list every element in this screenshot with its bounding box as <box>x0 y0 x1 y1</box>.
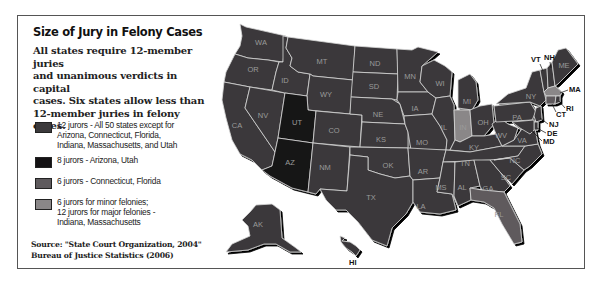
svg-text:MN: MN <box>404 72 416 81</box>
svg-text:AK: AK <box>253 220 263 229</box>
us-map: WA OR CA NV ID MT WY UT AZ CO NM ND SD N… <box>0 0 597 281</box>
svg-text:KY: KY <box>469 143 479 152</box>
svg-text:TX: TX <box>366 193 376 202</box>
svg-text:AZ: AZ <box>285 158 295 167</box>
svg-text:HI: HI <box>349 258 357 267</box>
svg-text:IA: IA <box>411 104 418 113</box>
state-nj <box>534 106 542 122</box>
svg-text:NY: NY <box>526 92 536 101</box>
svg-text:CT: CT <box>556 110 566 119</box>
svg-text:RI: RI <box>566 104 574 113</box>
svg-text:IN: IN <box>459 123 467 132</box>
svg-text:CO: CO <box>328 126 339 135</box>
svg-text:MA: MA <box>569 85 581 94</box>
svg-text:AL: AL <box>457 183 466 192</box>
state-ct <box>546 96 556 104</box>
svg-text:PA: PA <box>512 113 521 122</box>
svg-text:FL: FL <box>495 210 504 219</box>
svg-text:MS: MS <box>435 183 446 192</box>
svg-text:NE: NE <box>373 110 383 119</box>
svg-text:ID: ID <box>281 76 289 85</box>
svg-text:GA: GA <box>483 184 494 193</box>
state-hi <box>340 236 360 256</box>
svg-text:NC: NC <box>510 156 521 165</box>
svg-text:NM: NM <box>319 163 331 172</box>
svg-text:OK: OK <box>383 161 394 170</box>
svg-text:OH: OH <box>477 118 488 127</box>
svg-text:MD: MD <box>543 137 555 146</box>
svg-text:SC: SC <box>501 173 512 182</box>
state-ny <box>496 70 546 106</box>
svg-text:IL: IL <box>441 123 447 132</box>
svg-text:MT: MT <box>317 57 328 66</box>
svg-text:VA: VA <box>517 136 526 145</box>
svg-text:NV: NV <box>258 111 268 120</box>
svg-text:AR: AR <box>418 167 429 176</box>
svg-text:NJ: NJ <box>549 120 559 129</box>
svg-text:CA: CA <box>232 121 242 130</box>
svg-text:MI: MI <box>463 97 471 106</box>
svg-text:VT: VT <box>531 55 541 64</box>
svg-text:WV: WV <box>495 131 507 140</box>
svg-text:WY: WY <box>320 90 332 99</box>
svg-text:WI: WI <box>435 79 444 88</box>
svg-text:NH: NH <box>544 53 555 62</box>
state-ak <box>226 204 301 252</box>
svg-text:UT: UT <box>292 118 302 127</box>
svg-text:MO: MO <box>416 138 428 147</box>
svg-text:ME: ME <box>558 61 569 70</box>
state-de <box>534 122 538 130</box>
svg-text:LA: LA <box>416 202 425 211</box>
state-ri <box>555 96 560 104</box>
svg-text:ND: ND <box>370 59 381 68</box>
svg-text:KS: KS <box>376 135 386 144</box>
svg-text:OR: OR <box>247 65 259 74</box>
svg-text:SD: SD <box>369 82 380 91</box>
svg-text:TN: TN <box>460 159 470 168</box>
svg-text:WA: WA <box>255 38 267 47</box>
